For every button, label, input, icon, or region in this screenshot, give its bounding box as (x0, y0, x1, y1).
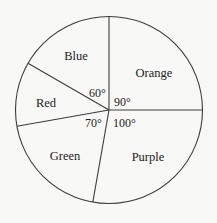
slice-label-blue: Blue (64, 49, 88, 63)
pie-chart: Blue Orange Red Green Purple 60° 90° 70°… (0, 0, 217, 223)
angle-label-blue: 60° (89, 86, 106, 100)
slice-label-purple: Purple (132, 150, 165, 164)
slice-label-green: Green (50, 149, 81, 163)
angle-label-green: 70° (85, 116, 102, 130)
angle-label-orange: 90° (114, 95, 131, 109)
slice-label-red: Red (36, 96, 57, 110)
slice-label-orange: Orange (136, 66, 173, 80)
angle-label-purple: 100° (113, 116, 136, 130)
